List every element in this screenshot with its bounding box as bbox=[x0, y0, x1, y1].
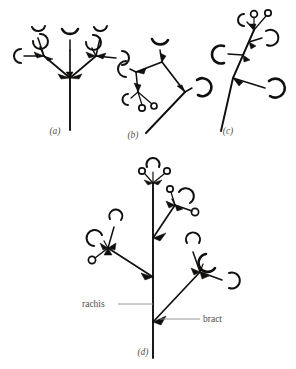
panel-b-bract-down bbox=[134, 83, 141, 92]
panel-a-flower-center bbox=[62, 29, 78, 34]
panel-d-lr-flower-up bbox=[186, 232, 200, 243]
panel-c-bud-top-right bbox=[265, 10, 271, 16]
panel-d-top-flower-mid bbox=[147, 158, 160, 167]
panel-d-label: (d) bbox=[137, 347, 148, 358]
panel-b-flower-terminal bbox=[197, 78, 211, 96]
annotation-rachis: rachis bbox=[82, 299, 153, 309]
panel-a-label: (a) bbox=[49, 126, 60, 137]
panel-b-pedicel-terminal bbox=[185, 88, 192, 92]
panel-a-branch-right bbox=[70, 56, 96, 78]
panel-c-bud-top-mid bbox=[251, 11, 258, 18]
panel-d-branch-upper-right bbox=[153, 205, 175, 238]
panel-b-bud-a bbox=[139, 105, 145, 111]
annotation-bract: bract bbox=[160, 314, 222, 324]
panel-a-umbel: (a) bbox=[14, 26, 129, 137]
panel-c-raceme: (c) bbox=[212, 10, 285, 137]
panel-b-axis bbox=[146, 92, 185, 133]
panel-d-l-flower-mid bbox=[87, 230, 102, 246]
panel-d-panicle: (d) bbox=[87, 158, 240, 358]
panel-a-flower-left-out bbox=[14, 49, 21, 63]
bract-label: bract bbox=[203, 314, 222, 324]
panel-c-label: (c) bbox=[223, 126, 234, 137]
panel-d-top-bract-right bbox=[153, 180, 162, 185]
panel-b-cyme: (b) bbox=[118, 39, 211, 141]
panel-c-bract-upper bbox=[249, 42, 256, 49]
panel-d-branch-lower-right bbox=[153, 272, 200, 322]
panel-a-flower-right-out bbox=[122, 51, 129, 65]
panel-d-top-bud-left bbox=[139, 168, 145, 174]
panel-c-flower-right bbox=[266, 30, 278, 46]
figure-page: (a) bbox=[0, 0, 296, 369]
panel-a-flower-right-up bbox=[94, 26, 107, 31]
panel-a-bract-right-2 bbox=[96, 53, 106, 59]
panel-b-bract-upper bbox=[160, 53, 166, 62]
panel-d-lr-flower-mid bbox=[199, 254, 215, 272]
panel-d-branch-left bbox=[108, 248, 153, 277]
panel-c-flower-left bbox=[212, 46, 224, 64]
panel-d-lr-flower-out bbox=[229, 273, 240, 289]
panel-d-ur-bud-out bbox=[191, 208, 198, 215]
panel-c-flower-low-right bbox=[269, 79, 285, 98]
panel-c-flower-top-left bbox=[238, 14, 244, 26]
inflorescence-figure: (a) bbox=[0, 0, 296, 369]
panel-b-branch-upper bbox=[162, 62, 185, 92]
panel-b-twig-left bbox=[131, 92, 138, 98]
panel-c-twig-top-right bbox=[254, 16, 266, 30]
panel-d-l-bud-out bbox=[88, 256, 95, 263]
panel-b-flower-small-left bbox=[123, 94, 129, 105]
panel-a-flower-left-up bbox=[32, 26, 45, 31]
panel-a-bract-left-2 bbox=[44, 56, 53, 61]
panel-b-flower-upper bbox=[152, 39, 168, 44]
panel-d-top-bud-right bbox=[164, 168, 170, 174]
panel-d-ur-bud-up bbox=[167, 186, 173, 192]
panel-b-label: (b) bbox=[127, 130, 138, 141]
panel-d-ur-flower-mid bbox=[179, 188, 194, 203]
panel-b-pedicel-left bbox=[130, 69, 136, 72]
panel-c-pedicel-left bbox=[228, 54, 243, 55]
panel-c-bract-mid bbox=[243, 55, 250, 62]
rachis-label: rachis bbox=[82, 299, 105, 309]
panel-d-l-flower-up bbox=[109, 210, 122, 220]
panel-b-bud-b bbox=[151, 103, 157, 109]
